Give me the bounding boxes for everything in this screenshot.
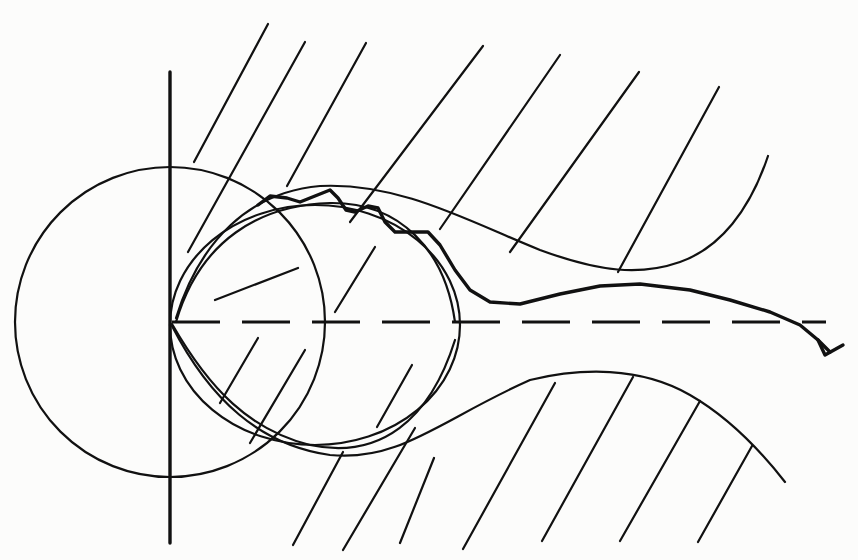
hatch-line (620, 401, 700, 541)
lower-boundary-curve (172, 326, 785, 482)
diagram-canvas (0, 0, 858, 560)
inner-circle (170, 205, 460, 445)
hatch-line (215, 268, 298, 300)
hatch-line (542, 377, 633, 541)
upper-boundary-curve (176, 156, 768, 318)
hatch-line (400, 458, 434, 543)
inner-circle-upper-arc (176, 203, 455, 322)
hatch-line (698, 446, 752, 542)
diagram-figure (0, 0, 858, 560)
hatch-line (194, 24, 268, 162)
hatch-line (440, 55, 560, 229)
hatch-line (463, 383, 555, 549)
hatch-line (220, 338, 258, 403)
hatch-line (335, 247, 375, 312)
inner-circle-lower-arc (172, 324, 455, 448)
hatch-line (293, 452, 343, 545)
wavy-trajectory-curve (258, 190, 830, 352)
hatch-line (618, 87, 719, 272)
hatch-line (287, 43, 366, 186)
